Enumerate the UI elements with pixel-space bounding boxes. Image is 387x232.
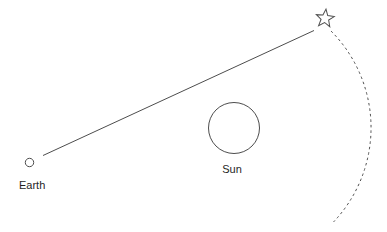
diagram-canvas: Earth Sun [0, 0, 387, 232]
sun-circle [209, 103, 260, 154]
parallax-diagram: Earth Sun [0, 0, 387, 232]
dashed-arc [331, 31, 371, 222]
star-icon [315, 8, 335, 27]
earth-to-star-sight-line [43, 31, 314, 156]
earth-label: Earth [19, 179, 45, 191]
sun-label: Sun [222, 163, 242, 175]
earth-circle [25, 158, 33, 166]
